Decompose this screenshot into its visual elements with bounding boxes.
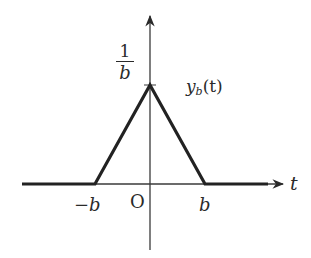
function-subscript: b (196, 85, 203, 98)
peak-value-label: 1 b (116, 42, 134, 82)
diagram-canvas (0, 0, 311, 258)
function-arg: (t) (203, 76, 223, 96)
tick-label-neg-b: −b (74, 194, 101, 215)
peak-numerator: 1 (120, 42, 131, 60)
origin-label: O (130, 191, 145, 212)
triangle-pulse-curve (22, 85, 268, 184)
function-name: y (186, 76, 196, 96)
peak-denominator: b (119, 64, 131, 82)
x-axis-label: t (290, 172, 298, 194)
tick-label-pos-b: b (199, 194, 211, 215)
function-label: yb(t) (186, 76, 223, 98)
